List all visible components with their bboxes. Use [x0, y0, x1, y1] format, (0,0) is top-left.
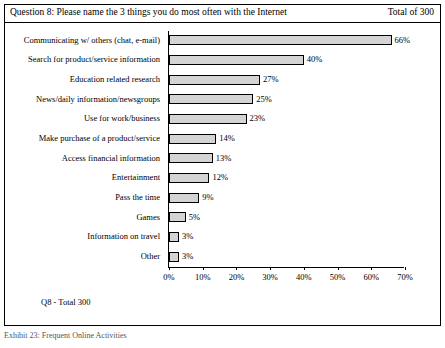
category-label: Search for product/service information [0, 53, 160, 65]
bar [169, 153, 213, 163]
bar-row: Entertainment12% [5, 169, 440, 189]
x-tick [169, 267, 170, 270]
bar [169, 134, 216, 144]
exhibit-caption: Exhibit 23: Frequent Online Activities [4, 331, 127, 340]
bar-value-label: 25% [256, 93, 272, 105]
category-label: Games [0, 211, 160, 223]
x-tick [304, 267, 305, 270]
category-label: News/daily information/newsgroups [0, 93, 160, 105]
bar-value-label: 5% [189, 211, 200, 223]
question-title: Question 8: Please name the 3 things you… [10, 7, 287, 17]
bar [169, 232, 179, 242]
category-label: Information on travel [0, 230, 160, 242]
x-tick-label: 30% [262, 272, 278, 282]
bar-value-label: 3% [182, 230, 193, 242]
x-tick [270, 267, 271, 270]
category-label: Entertainment [0, 171, 160, 183]
chart-header: Question 8: Please name the 3 things you… [5, 5, 440, 23]
chart-page: Question 8: Please name the 3 things you… [0, 0, 445, 348]
bar-row: Information on travel3% [5, 228, 440, 248]
chart-footnote: Q8 - Total 300 [41, 297, 91, 307]
bar-row: Other3% [5, 247, 440, 267]
plot-area: Communicating w/ others (chat, e-mail)66… [5, 23, 440, 326]
x-tick-label: 20% [229, 272, 245, 282]
bar-value-label: 13% [216, 152, 232, 164]
bar-value-label: 40% [307, 53, 323, 65]
x-tick-label: 40% [296, 272, 312, 282]
bar [169, 55, 304, 65]
bar [169, 173, 209, 183]
bar-value-label: 3% [182, 250, 193, 262]
x-tick-label: 60% [363, 272, 379, 282]
category-label: Other [0, 250, 160, 262]
category-label: Communicating w/ others (chat, e-mail) [0, 34, 160, 46]
bar-row: Access financial information13% [5, 149, 440, 169]
bar-row: Education related research27% [5, 70, 440, 90]
x-tick-label: 10% [195, 272, 211, 282]
bar-value-label: 9% [202, 191, 213, 203]
bar-row: Communicating w/ others (chat, e-mail)66… [5, 31, 440, 51]
category-label: Pass the time [0, 191, 160, 203]
bar-row: Pass the time9% [5, 188, 440, 208]
bar-row: Games5% [5, 208, 440, 228]
total-respondents: Total of 300 [388, 7, 434, 17]
x-tick-label: 50% [330, 272, 346, 282]
bar-value-label: 12% [212, 171, 228, 183]
bar-value-label: 27% [263, 73, 279, 85]
bar [169, 94, 253, 104]
bar [169, 212, 186, 222]
category-label: Education related research [0, 73, 160, 85]
bar-value-label: 66% [395, 34, 411, 46]
bar-row: Search for product/service information40… [5, 51, 440, 71]
bar [169, 35, 392, 45]
x-tick [203, 267, 204, 270]
bar-row: Make purchase of a product/service14% [5, 129, 440, 149]
bar-rows: Communicating w/ others (chat, e-mail)66… [5, 31, 440, 267]
bar-value-label: 14% [219, 132, 235, 144]
x-tick [405, 267, 406, 270]
x-tick [371, 267, 372, 270]
bar [169, 252, 179, 262]
category-label: Access financial information [0, 152, 160, 164]
x-tick-label: 0% [163, 272, 174, 282]
bar-row: Use for work/business23% [5, 110, 440, 130]
chart-frame: Question 8: Please name the 3 things you… [4, 4, 441, 326]
bar [169, 75, 260, 85]
x-tick [236, 267, 237, 270]
category-label: Make purchase of a product/service [0, 132, 160, 144]
bar-value-label: 23% [250, 112, 266, 124]
x-tick [338, 267, 339, 270]
x-tick-label: 70% [397, 272, 413, 282]
category-label: Use for work/business [0, 112, 160, 124]
bar [169, 114, 247, 124]
bar [169, 193, 199, 203]
bar-row: News/daily information/newsgroups25% [5, 90, 440, 110]
